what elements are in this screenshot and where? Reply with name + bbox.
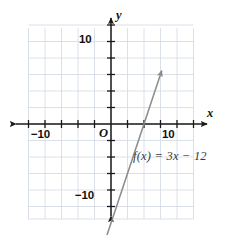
- function-equation-label: f(x) = 3x − 12: [133, 149, 207, 164]
- coordinate-plane-svg: [0, 0, 225, 235]
- graph-figure: −10 10 10 −10 x y O f(x) = 3x − 12: [0, 0, 225, 235]
- y-axis-tick-label-positive-ten: 10: [79, 33, 91, 45]
- x-axis-tick-label-positive-ten: 10: [162, 128, 174, 140]
- y-axis-name-label: y: [116, 8, 122, 23]
- origin-label: O: [99, 126, 108, 141]
- x-axis-name-label: x: [207, 106, 213, 121]
- x-axis-tick-label-negative-ten: −10: [31, 128, 50, 140]
- y-axis-tick-label-negative-ten: −10: [75, 189, 94, 201]
